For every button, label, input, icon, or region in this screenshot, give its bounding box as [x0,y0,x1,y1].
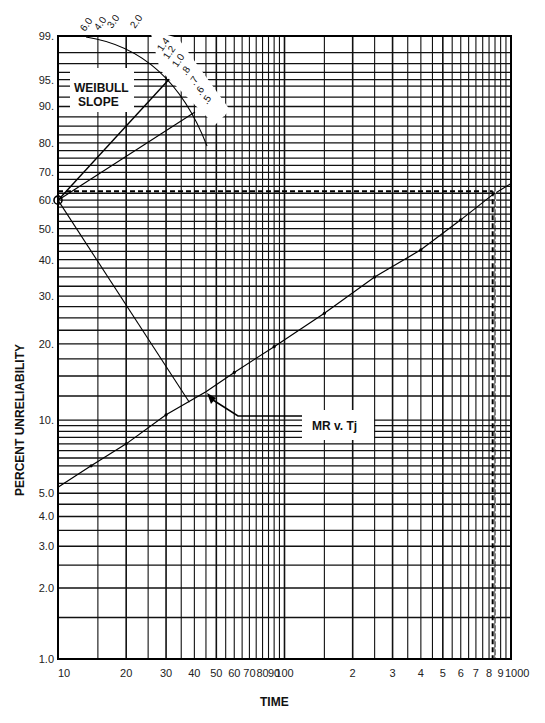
y-tick-label: 30. [39,290,54,302]
slope-scale-label: 3.0 [105,12,122,30]
y-tick-label: 70. [39,166,54,178]
y-tick-label: 5.0 [39,487,54,499]
x-tick-label: 3 [390,667,396,679]
weibull-slope-label-2: SLOPE [78,95,119,109]
slope-scale-label: 2.0 [128,12,145,30]
x-tick-label: 4 [418,667,424,679]
x-tick-label: 8 [486,667,492,679]
y-tick-label: 20. [39,338,54,350]
y-tick-label: 60. [39,194,54,206]
x-tick-label: 10 [58,667,70,679]
x-tick-label: 60 [228,667,240,679]
x-tick-label: 9 [498,667,504,679]
y-tick-label: 2.0 [39,582,54,594]
y-axis-title: PERCENT UNRELIABILITY [13,344,27,496]
x-tick-label: 6 [458,667,464,679]
x-tick-label: 5 [440,667,446,679]
weibull-slope-label-1: WEIBULL [74,81,129,95]
y-axis-ticks: 99.95.90.80.70.60.50.40.30.20.10.5.04.03… [39,30,54,665]
series-label: MR v. Tj [312,419,357,433]
x-tick-label: 1000 [505,667,529,679]
weibull-probability-chart: 99.95.90.80.70.60.50.40.30.20.10.5.04.03… [0,0,545,723]
x-axis-title: TIME [260,695,289,709]
plot-grid [58,36,511,659]
y-tick-label: 3.0 [39,540,54,552]
y-tick-label: 10. [39,414,54,426]
y-tick-label: 50. [39,223,54,235]
x-axis-ticks: 102030405060708090100234567891000 [58,667,529,679]
x-tick-label: 100 [275,667,293,679]
y-tick-label: 40. [39,254,54,266]
x-tick-label: 50 [210,667,222,679]
y-tick-label: 1.0 [39,653,54,665]
x-tick-label: 2 [350,667,356,679]
y-tick-label: 90. [39,100,54,112]
y-tick-label: 4.0 [39,510,54,522]
y-tick-label: 80. [39,137,54,149]
x-tick-label: 40 [188,667,200,679]
y-tick-label: 99. [39,30,54,42]
x-tick-label: 7 [473,667,479,679]
y-tick-label: 95. [39,74,54,86]
x-tick-label: 70 [243,667,255,679]
x-tick-label: 80 [256,667,268,679]
x-tick-label: 30 [160,667,172,679]
x-tick-label: 20 [120,667,132,679]
